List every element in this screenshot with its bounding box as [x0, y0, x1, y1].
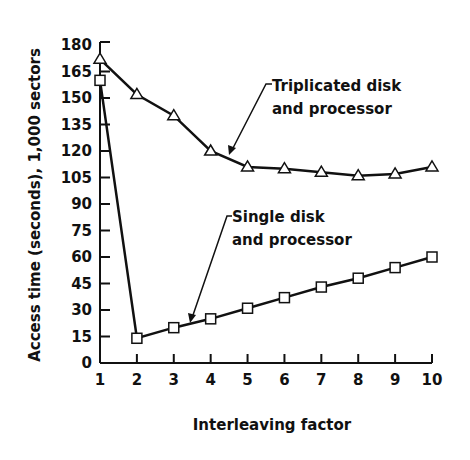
triangle-marker [426, 161, 438, 171]
x-tick-label: 5 [242, 371, 252, 389]
y-axis-ticks: 0153045607590105120135150165180 [61, 36, 110, 372]
x-tick-label: 9 [390, 371, 400, 389]
x-tick-label: 4 [205, 371, 215, 389]
y-tick-label: 0 [82, 354, 92, 372]
y-tick-label: 165 [61, 63, 92, 81]
annotation-arrow-single [192, 216, 232, 318]
square-marker [390, 263, 400, 273]
arrowhead-icon [228, 145, 236, 155]
x-tick-label: 8 [353, 371, 363, 389]
y-tick-label: 15 [71, 328, 92, 346]
y-tick-label: 135 [61, 116, 92, 134]
annotation-single-line2: and processor [232, 231, 352, 249]
annotation-triplicated-line2: and processor [272, 100, 392, 118]
y-tick-label: 75 [71, 222, 92, 240]
x-tick-label: 10 [422, 371, 443, 389]
square-marker [206, 314, 216, 324]
y-tick-label: 120 [61, 142, 92, 160]
square-marker [95, 75, 105, 85]
annotation-triplicated-line1: Triplicated disk [272, 77, 402, 95]
square-marker [132, 333, 142, 343]
annotations: Triplicated diskand processorSingle disk… [188, 77, 402, 323]
y-tick-label: 150 [61, 89, 92, 107]
x-tick-label: 1 [95, 371, 105, 389]
y-tick-label: 30 [71, 301, 92, 319]
square-marker [316, 282, 326, 292]
triangle-marker [94, 53, 106, 63]
x-tick-label: 3 [169, 371, 179, 389]
y-tick-label: 60 [71, 248, 92, 266]
annotation-arrow-triplicated [232, 84, 272, 150]
x-axis-title: Interleaving factor [193, 416, 352, 434]
square-marker [169, 323, 179, 333]
annotation-single-line1: Single disk [232, 208, 326, 226]
x-axis-ticks: 12345678910 [95, 354, 443, 389]
square-marker [279, 293, 289, 303]
square-marker [353, 273, 363, 283]
x-tick-label: 2 [132, 371, 142, 389]
y-tick-label: 105 [61, 169, 92, 187]
square-marker [427, 252, 437, 262]
y-axis-title: Access time (seconds), 1,000 sectors [26, 48, 44, 362]
y-tick-label: 180 [61, 36, 92, 54]
y-tick-label: 45 [71, 275, 92, 293]
x-tick-label: 7 [316, 371, 326, 389]
data-series [94, 53, 438, 343]
y-tick-label: 90 [71, 195, 92, 213]
square-marker [243, 303, 253, 313]
line-chart: 0153045607590105120135150165180 12345678… [0, 0, 470, 460]
x-tick-label: 6 [279, 371, 289, 389]
